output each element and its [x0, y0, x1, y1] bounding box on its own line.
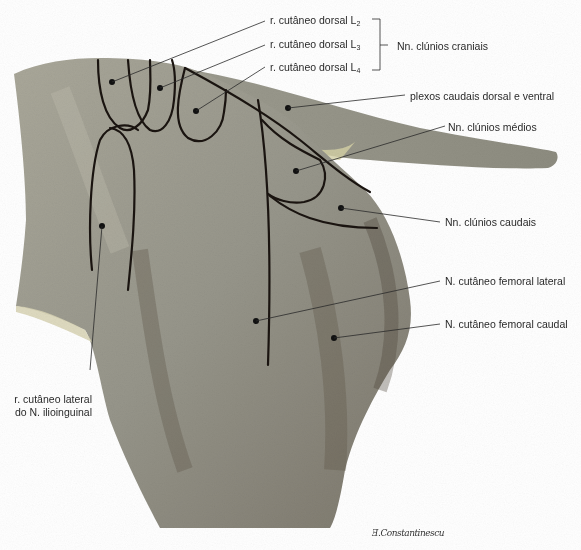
- label-text: r. cutâneo dorsal L: [270, 61, 356, 73]
- label-text: r. cutâneo dorsal L: [270, 14, 356, 26]
- label-subscript: 3: [356, 44, 360, 51]
- label-clunios-craniais: Nn. clúnios craniais: [397, 40, 488, 52]
- label-text: r. cutâneo dorsal L: [270, 38, 356, 50]
- label-dorsal-l3: r. cutâneo dorsal L3: [270, 38, 360, 54]
- label-plexos-caudais: plexos caudais dorsal e ventral: [410, 90, 554, 102]
- label-femoral-caudal: N. cutâneo femoral caudal: [445, 318, 568, 330]
- label-clunios-medios: Nn. clúnios médios: [448, 121, 537, 133]
- label-ilioinguinal: r. cutâneo lateral do N. ilioinguinal: [2, 393, 92, 419]
- label-subscript: 4: [356, 67, 360, 74]
- artist-signature: Ǝ.Constantinescu: [372, 528, 444, 538]
- label-femoral-lateral: N. cutâneo femoral lateral: [445, 275, 565, 287]
- label-subscript: 2: [356, 20, 360, 27]
- label-dorsal-l2: r. cutâneo dorsal L2: [270, 14, 360, 30]
- label-dorsal-l4: r. cutâneo dorsal L4: [270, 61, 360, 77]
- label-clunios-caudais: Nn. clúnios caudais: [445, 216, 536, 228]
